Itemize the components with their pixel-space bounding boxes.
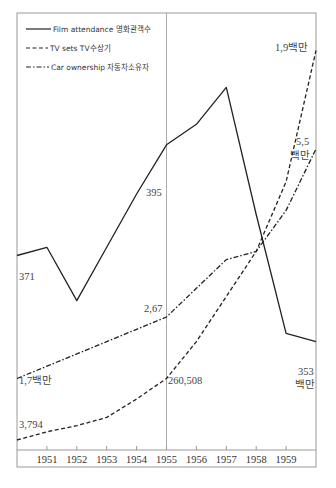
x-tick-label-1951: 1951 [36, 454, 57, 465]
x-tick-label-1959: 1959 [276, 454, 297, 465]
label-tv-1950: 3,794 [19, 419, 43, 430]
label-car-1960: 5,5 [296, 136, 309, 147]
label-tv-1955: 260,508 [168, 375, 202, 386]
label-film-1960-unit: 백만 [295, 379, 315, 390]
legend-label-tv: TV sets TV수상기 [49, 43, 111, 53]
chart: Film attendance 영화관객수 TV sets TV수상기 Car … [0, 0, 336, 488]
label-car-1955: 2,67 [144, 303, 162, 314]
x-tick-label-1955: 1955 [156, 454, 177, 465]
label-car-1950: 1,7백만 [19, 375, 52, 386]
x-ticks: 195119521953195419551956195719581959 [36, 446, 296, 465]
label-film-1955: 395 [146, 187, 162, 198]
x-tick-label-1956: 1956 [186, 454, 207, 465]
x-tick-label-1957: 1957 [216, 454, 237, 465]
x-tick-label-1953: 1953 [96, 454, 117, 465]
label-tv-1960: 1,9백만 [275, 42, 308, 53]
legend-label-car: Car ownership 자동차소유자 [51, 63, 149, 72]
x-tick-label-1952: 1952 [66, 454, 87, 465]
legend: Film attendance 영화관객수 TV sets TV수상기 Car … [26, 24, 151, 72]
legend-label-film: Film attendance 영화관객수 [53, 24, 151, 34]
label-film-1951: 371 [19, 271, 35, 282]
x-tick-label-1954: 1954 [126, 454, 148, 465]
label-car-1960-unit: 백만 [290, 150, 310, 161]
x-tick-label-1958: 1958 [246, 454, 267, 465]
label-film-1960: 353 [298, 366, 314, 377]
